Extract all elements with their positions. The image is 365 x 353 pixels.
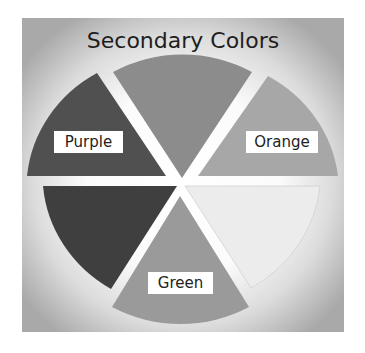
label-purple: Purple (54, 131, 123, 153)
label-green: Green (148, 272, 213, 294)
label-orange: Orange (246, 131, 318, 153)
color-wheel (0, 0, 365, 353)
